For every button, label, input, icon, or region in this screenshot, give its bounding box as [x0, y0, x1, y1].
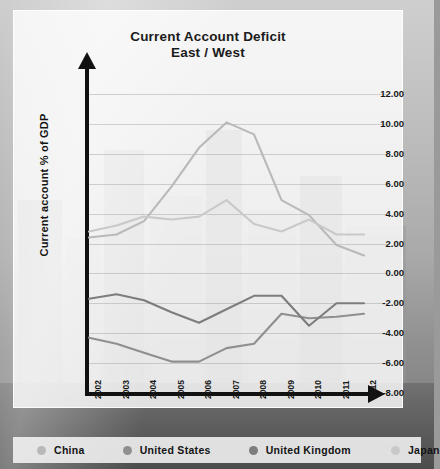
- legend-item-japan[interactable]: Japan: [391, 444, 440, 456]
- legend-label: China: [54, 444, 85, 456]
- series-line-china: [89, 122, 364, 255]
- legend-swatch-icon: [249, 446, 258, 455]
- legend-label: United States: [140, 444, 211, 456]
- series-lines: [14, 11, 404, 409]
- legend-swatch-icon: [123, 446, 132, 455]
- legend-label: United Kingdom: [266, 444, 351, 456]
- plot-area: 12.0010.008.006.004.002.000.00-2.00-4.00…: [14, 11, 404, 409]
- legend-item-china[interactable]: China: [37, 444, 85, 456]
- legend-swatch-icon: [391, 446, 400, 455]
- legend-item-united-kingdom[interactable]: United Kingdom: [249, 444, 351, 456]
- series-line-united-states: [89, 314, 364, 362]
- chart-legend: ChinaUnited StatesUnited KingdomJapan: [13, 437, 421, 463]
- legend-item-united-states[interactable]: United States: [123, 444, 211, 456]
- chart-panel: Current Account Deficit East / West 12.0…: [13, 10, 403, 408]
- legend-label: Japan: [408, 444, 440, 456]
- series-line-united-kingdom: [89, 294, 364, 325]
- legend-swatch-icon: [37, 446, 46, 455]
